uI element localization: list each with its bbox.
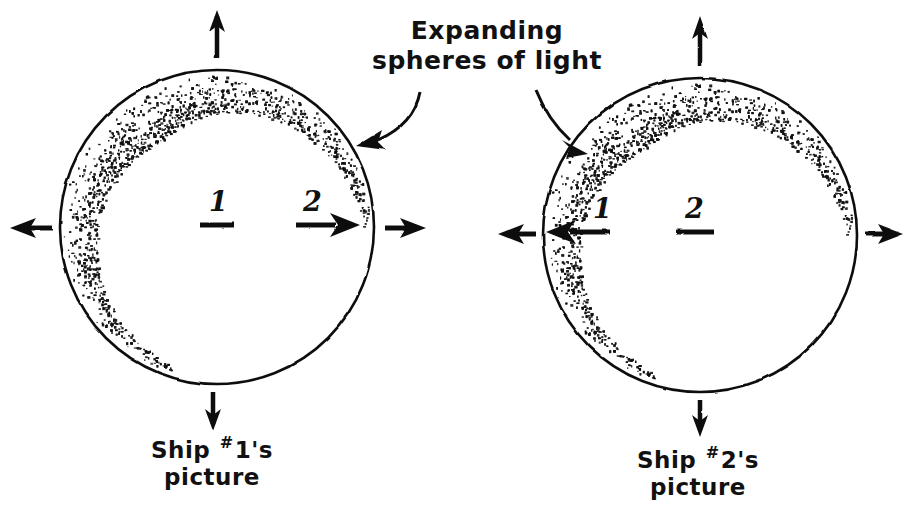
caption-number: 1 bbox=[235, 437, 252, 463]
caption-prefix: Ship bbox=[637, 447, 705, 473]
caption-prefix: Ship bbox=[151, 437, 219, 463]
diagram-canvas: Expanding spheres of light 1 2 1 2 Ship … bbox=[0, 0, 913, 528]
hash-icon: # bbox=[705, 443, 721, 462]
caption-suffix: 's bbox=[251, 437, 273, 463]
pointer-arrow-to-left-sphere bbox=[356, 92, 420, 150]
arrow-down-left-sphere bbox=[205, 392, 221, 431]
caption-number: 2 bbox=[721, 447, 738, 473]
arrow-up-left-sphere bbox=[209, 10, 225, 58]
right-sphere-label-2: 2 bbox=[685, 193, 704, 224]
arrow-left-right-sphere bbox=[498, 224, 536, 244]
label-pointer-arrows bbox=[356, 90, 588, 158]
right-sphere-group bbox=[543, 78, 857, 392]
caption-line2: picture bbox=[650, 474, 746, 500]
arrow-down-right-sphere bbox=[692, 400, 708, 437]
right-sphere-label-1: 1 bbox=[593, 193, 612, 224]
left-panel-caption: Ship #1's picture bbox=[82, 434, 342, 491]
left-sphere-label-1: 1 bbox=[209, 186, 228, 217]
page-title: Expanding spheres of light bbox=[352, 16, 622, 75]
arrow-right-right-sphere bbox=[866, 224, 904, 244]
arrow-up-right-sphere bbox=[692, 16, 708, 66]
right-panel-caption: Ship #2's picture bbox=[568, 444, 828, 501]
right-sphere-outline bbox=[543, 78, 857, 392]
pointer-arrow-to-right-sphere bbox=[536, 90, 588, 158]
caption-line2: picture bbox=[164, 464, 260, 490]
arrow-left-left-sphere bbox=[10, 218, 52, 238]
arrow-right-left-sphere bbox=[385, 218, 426, 238]
caption-suffix: 's bbox=[737, 447, 759, 473]
hash-icon: # bbox=[219, 433, 235, 452]
left-sphere-label-2: 2 bbox=[303, 186, 322, 217]
